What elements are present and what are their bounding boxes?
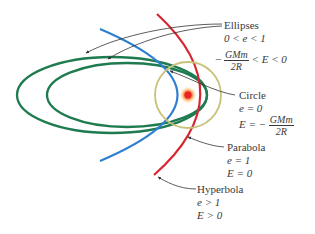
parabola-eccentricity: e = 1 bbox=[227, 154, 265, 167]
parabola-energy: E = 0 bbox=[227, 167, 265, 180]
parabola-leader bbox=[188, 137, 224, 147]
ellipses-name: Ellipses bbox=[224, 19, 266, 32]
fraction-numerator: GMm bbox=[269, 114, 294, 126]
hyperbola-energy: E > 0 bbox=[197, 209, 243, 222]
ellipses-eccentricity: 0 < e < 1 bbox=[224, 32, 266, 45]
ellipses-energy-range: < E < 0 bbox=[252, 53, 287, 65]
hyperbola-eccentricity: e > 1 bbox=[197, 196, 243, 209]
fraction-denominator: 2R bbox=[269, 126, 294, 137]
ellipses-label: Ellipses 0 < e < 1 bbox=[224, 19, 266, 45]
parabola-orbit bbox=[100, 29, 178, 161]
circle-energy-prefix: E = − bbox=[239, 118, 266, 130]
circle-energy-fraction: GMm 2R bbox=[269, 114, 294, 137]
fraction-numerator: GMm bbox=[224, 49, 249, 61]
hyperbola-label: Hyperbola e > 1 E > 0 bbox=[197, 183, 243, 222]
parabola-label: Parabola e = 1 E = 0 bbox=[227, 141, 265, 180]
fraction-denominator: 2R bbox=[224, 61, 249, 72]
circle-name: Circle bbox=[239, 89, 266, 102]
hyperbola-leader bbox=[158, 177, 196, 189]
parabola-name: Parabola bbox=[227, 141, 265, 154]
ellipses-energy: − GMm 2R < E < 0 bbox=[215, 49, 287, 72]
ellipses-leader-2 bbox=[108, 26, 222, 59]
central-mass-core bbox=[185, 92, 192, 99]
hyperbola-name: Hyperbola bbox=[197, 183, 243, 196]
circle-energy: E = − GMm 2R bbox=[239, 114, 294, 137]
ellipses-energy-minus: − bbox=[215, 53, 221, 65]
ellipses-energy-fraction: GMm 2R bbox=[224, 49, 249, 72]
circle-label: Circle e = 0 bbox=[239, 89, 266, 115]
